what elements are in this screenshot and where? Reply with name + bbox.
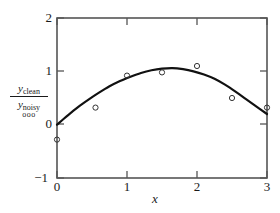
legend-marker-sample: ooo	[5, 111, 53, 119]
legend-numerator-subscript: clean	[23, 87, 40, 96]
series-y-noisy	[54, 63, 269, 142]
x-tick-label-3: 3	[257, 180, 277, 193]
y-axis-ticks	[57, 18, 267, 178]
data-point-marker	[159, 70, 164, 75]
y-axis-legend: yclean ynoisy ooo	[5, 83, 53, 119]
y-tick-label-1: 1	[30, 64, 52, 77]
x-axis-ticks	[57, 18, 267, 178]
x-tick-label-2: 2	[187, 180, 207, 193]
data-point-marker	[194, 63, 199, 68]
x-tick-label-0: 0	[47, 180, 67, 193]
y-tick-label-2: 2	[30, 11, 52, 24]
data-point-marker	[229, 95, 234, 100]
clean-curve-path	[57, 68, 267, 125]
y-tick-label-minus1: −1	[26, 171, 48, 184]
legend-denominator-subscript: noisy	[23, 103, 40, 112]
series-y-clean	[57, 68, 267, 125]
x-axis-label: x	[152, 192, 158, 205]
chart-figure: 2 1 0 −1 0 1 2 3 x yclean ynoisy ooo	[0, 0, 280, 213]
plot-frame	[57, 18, 267, 178]
legend-numerator: yclean	[5, 83, 53, 95]
data-point-marker	[93, 105, 98, 110]
legend-denominator: ynoisy	[5, 99, 53, 111]
x-tick-label-1: 1	[117, 180, 137, 193]
